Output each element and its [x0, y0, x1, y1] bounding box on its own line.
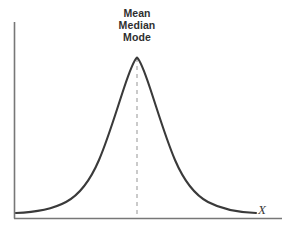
bell-curve-path	[16, 58, 256, 214]
normal-distribution-figure: Mean Median Mode X	[0, 0, 282, 233]
mode-label: Mode	[97, 31, 177, 43]
mean-label: Mean	[97, 7, 177, 19]
central-tendency-labels: Mean Median Mode	[97, 7, 177, 43]
x-axis-label: X	[258, 202, 266, 218]
median-label: Median	[97, 19, 177, 31]
